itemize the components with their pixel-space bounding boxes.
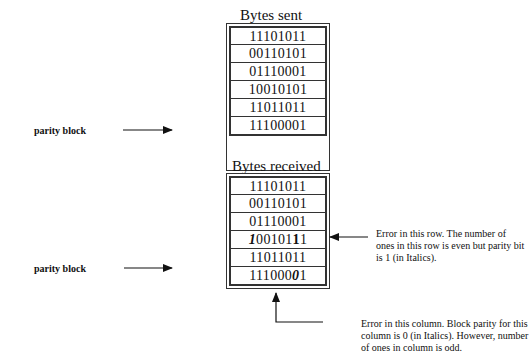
arrows-layer: [0, 0, 530, 363]
arrow-up-icon: [276, 293, 323, 322]
